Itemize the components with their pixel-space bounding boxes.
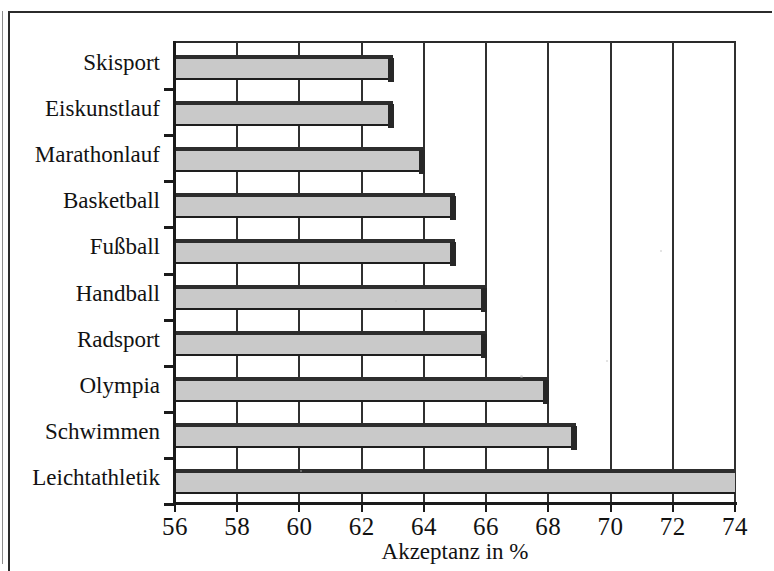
bar-fußball [175, 239, 455, 264]
x-tick-64 [423, 503, 425, 512]
y-label-handball: Handball [0, 281, 160, 307]
x-tick-68 [547, 503, 549, 512]
bar-marathonlauf [175, 147, 424, 172]
x-tick-74 [734, 503, 736, 512]
x-tick-56 [174, 503, 176, 512]
bar-cap-olympia [543, 380, 549, 404]
x-tick-label-64: 64 [394, 512, 454, 542]
bar-handball [175, 285, 486, 310]
x-tick-label-70: 70 [581, 512, 641, 542]
scan-speck-3 [660, 250, 662, 252]
bar-cap-handball [481, 288, 487, 312]
y-label-schwimmen: Schwimmen [0, 419, 160, 445]
scan-speck-2 [300, 470, 302, 472]
bar-leichtathletik [175, 469, 735, 494]
bar-cap-radsport [481, 334, 487, 358]
y-label-fußball: Fußball [0, 234, 160, 260]
y-tick-2 [164, 180, 175, 183]
bar-cap-eiskunstlauf [388, 104, 394, 128]
y-label-radsport: Radsport [0, 327, 160, 353]
y-tick-7 [164, 411, 175, 414]
gridline-70 [610, 42, 612, 503]
y-label-skisport: Skisport [0, 50, 160, 76]
y-tick-6 [164, 365, 175, 368]
bar-cap-skisport [388, 58, 394, 82]
y-tick-8 [164, 457, 175, 460]
y-tick-3 [164, 226, 175, 229]
bar-skisport [175, 55, 393, 80]
plot-top-border [175, 41, 736, 43]
y-label-basketball: Basketball [0, 188, 160, 214]
bar-radsport [175, 331, 486, 356]
x-tick-label-74: 74 [705, 512, 765, 542]
x-tick-label-60: 60 [269, 512, 329, 542]
y-label-olympia: Olympia [0, 373, 160, 399]
x-tick-label-62: 62 [332, 512, 392, 542]
y-label-leichtathletik: Leichtathletik [0, 465, 160, 491]
scan-speck-4 [395, 300, 397, 302]
x-tick-60 [298, 503, 300, 512]
x-tick-70 [610, 503, 612, 512]
bar-basketball [175, 193, 455, 218]
x-tick-62 [361, 503, 363, 512]
y-tick-0 [164, 88, 175, 91]
bar-schwimmen [175, 423, 576, 448]
bar-cap-fußball [450, 242, 456, 266]
x-tick-label-58: 58 [207, 512, 267, 542]
gridline-74 [734, 42, 736, 503]
x-tick-label-68: 68 [518, 512, 578, 542]
scan-speck-1 [606, 360, 608, 362]
bar-cap-basketball [450, 196, 456, 220]
bar-eiskunstlauf [175, 101, 393, 126]
bar-cap-marathonlauf [419, 150, 425, 174]
x-axis-title: Akzeptanz in % [175, 540, 735, 564]
y-tick-5 [164, 319, 175, 322]
x-tick-66 [485, 503, 487, 512]
x-tick-72 [672, 503, 674, 512]
y-label-eiskunstlauf: Eiskunstlauf [0, 96, 160, 122]
x-tick-label-56: 56 [145, 512, 205, 542]
y-tick-1 [164, 134, 175, 137]
y-tick-4 [164, 273, 175, 276]
x-axis-line [173, 502, 737, 505]
x-tick-label-72: 72 [643, 512, 703, 542]
bar-olympia [175, 377, 548, 402]
x-tick-58 [236, 503, 238, 512]
gridline-72 [672, 42, 674, 503]
bar-cap-schwimmen [571, 426, 577, 450]
y-label-marathonlauf: Marathonlauf [0, 142, 160, 168]
x-tick-label-66: 66 [456, 512, 516, 542]
scan-speck-0 [520, 375, 523, 378]
